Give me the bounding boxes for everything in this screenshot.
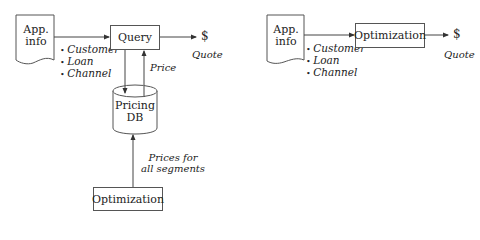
attribute-channel: Channel <box>60 68 119 80</box>
pricing-db-label: Pricing DB <box>115 100 155 124</box>
attribute-list-right: Customer Loan Channel <box>306 43 365 79</box>
app-info-line2-right: info <box>272 36 300 48</box>
prices-label-line2: all segments <box>141 163 205 174</box>
attribute-channel-right: Channel <box>306 67 365 79</box>
optimization-box-right: Optimization <box>355 23 425 48</box>
app-info-label: App. info <box>22 24 50 48</box>
quote-label: Quote <box>192 49 223 61</box>
app-info-line2: info <box>22 36 50 48</box>
dollar-symbol: $ <box>201 30 209 42</box>
prices-label-line1: Prices for <box>141 152 205 163</box>
prices-for-all-segments-label: Prices for all segments <box>141 152 205 174</box>
price-label: Price <box>150 62 176 74</box>
pricing-db-line2: DB <box>115 112 155 124</box>
quote-label-right: Quote <box>444 49 475 61</box>
app-info-label-right: App. info <box>272 24 300 48</box>
dollar-symbol-right: $ <box>453 28 461 40</box>
optimization-box: Optimization <box>93 187 163 211</box>
query-box: Query <box>110 25 160 50</box>
